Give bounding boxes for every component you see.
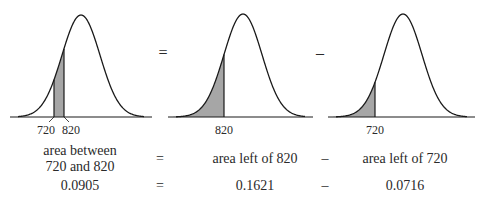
shaded-area xyxy=(328,82,375,117)
minus-sign-text: – xyxy=(315,151,335,167)
equals-sign-value: = xyxy=(150,178,170,194)
normal-curve xyxy=(336,14,467,117)
curve-panel-between xyxy=(10,15,152,117)
area-between-label-line2: 720 and 820 xyxy=(20,159,140,175)
tick-label-820-panel2: 820 xyxy=(209,124,239,136)
minus-sign-value: – xyxy=(315,178,335,194)
area-between-label-line1: area between xyxy=(20,143,140,159)
normal-curve xyxy=(176,14,305,117)
area-left-820-label: area left of 820 xyxy=(190,151,320,167)
curve-panel-left-720 xyxy=(328,14,475,117)
value-area-left-720: 0.0716 xyxy=(340,178,470,194)
area-left-720-label: area left of 720 xyxy=(340,151,470,167)
equals-sign-top: = xyxy=(153,44,173,62)
shaded-area xyxy=(168,55,224,117)
value-area-left-820: 0.1621 xyxy=(190,178,320,194)
normal-curve xyxy=(18,15,144,117)
equals-sign-text: = xyxy=(150,151,170,167)
label-leader-tick xyxy=(64,117,69,122)
label-leader-tick xyxy=(49,117,54,122)
minus-sign-top: – xyxy=(310,44,330,62)
value-area-between: 0.0905 xyxy=(20,178,140,194)
tick-label-720-panel3: 720 xyxy=(360,124,390,136)
tick-label-820-panel1: 820 xyxy=(56,124,86,136)
curve-panel-left-820 xyxy=(168,14,313,117)
shaded-area xyxy=(54,49,64,117)
